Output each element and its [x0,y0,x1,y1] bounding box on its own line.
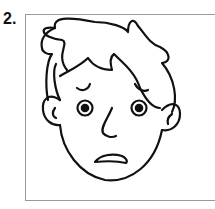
worried-face-illustration [0,0,215,209]
